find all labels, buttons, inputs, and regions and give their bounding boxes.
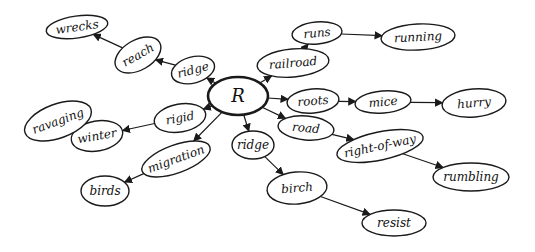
nodes-layer: Rridgereachwrecksrailroadrunsrunningroot… [19, 12, 509, 236]
edge-R-to-railroad [260, 76, 272, 83]
node-ridge1: ridge [168, 52, 217, 89]
node-hurry: hurry [441, 86, 507, 119]
node-label: mice [368, 94, 398, 110]
node-reach: reach [109, 30, 167, 81]
node-right-of-way: right-of-way [334, 123, 426, 169]
node-railroad: railroad [256, 46, 330, 80]
concept-map: Rridgereachwrecksrailroadrunsrunningroot… [0, 0, 535, 252]
center-node: R [208, 77, 268, 115]
node-rumbling: rumbling [433, 163, 509, 191]
edge-rigid-to-winter [122, 124, 154, 131]
node-label: hurry [457, 95, 492, 112]
edge-right_of_way-to-rumbling [403, 154, 443, 168]
node-label: road [292, 120, 321, 136]
edge-R-to-ridge2 [244, 115, 249, 132]
node-label: birch [281, 180, 314, 197]
node-roots: roots [286, 87, 340, 115]
edge-ridge2-to-birch [265, 157, 284, 175]
node-runs: runs [291, 20, 343, 46]
node-mice: mice [354, 89, 412, 116]
node-label: rumbling [443, 170, 499, 184]
edge-R-to-ridge1 [207, 78, 216, 83]
node-road: road [277, 114, 335, 143]
edge-road-to-right_of_way [332, 134, 354, 139]
node-birds: birds [81, 176, 129, 206]
node-label: ridge [237, 138, 269, 152]
edge-birch-to-resist [321, 197, 371, 215]
edge-R-to-roots [268, 98, 288, 99]
node-label: running [394, 29, 443, 46]
edge-migration-to-birds [125, 174, 144, 183]
edge-R-to-road [262, 107, 285, 118]
node-running: running [380, 22, 455, 52]
node-resist: resist [362, 210, 426, 236]
node-label: birds [89, 184, 120, 198]
node-migration: migration [137, 134, 214, 185]
edge-railroad-to-runs [304, 44, 308, 49]
node-rigid: rigid [152, 100, 208, 137]
node-birch: birch [266, 169, 329, 206]
node-label: resist [377, 216, 411, 230]
edge-runs-to-running [341, 34, 382, 36]
node-ridge2: ridge [232, 131, 274, 159]
edge-reach-to-wrecks [93, 34, 122, 48]
edge-ridge1-to-reach [156, 60, 176, 65]
node-label: roots [297, 93, 329, 110]
node-label: runs [303, 25, 331, 41]
node-label: R [230, 85, 245, 106]
